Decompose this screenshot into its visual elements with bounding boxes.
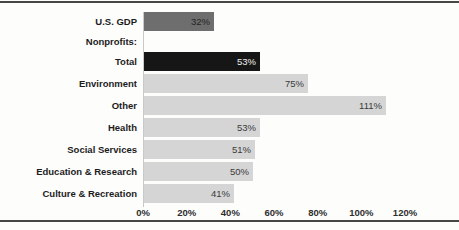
x-tick-label: 40% (205, 207, 255, 218)
bar-value-label: 111% (359, 100, 382, 111)
bar: 32% (144, 12, 214, 31)
x-tick-label: 100% (336, 207, 386, 218)
bar-chart: U.S. GDP32%Nonprofits:Total53%Environmen… (0, 0, 459, 220)
x-tick-label: 80% (293, 207, 343, 218)
category-label: Education & Research (0, 162, 137, 181)
bar-value-label: 41% (211, 188, 230, 199)
bar: 53% (144, 52, 260, 71)
bar: 111% (144, 96, 386, 115)
category-label: U.S. GDP (0, 12, 137, 31)
x-tick-label: 20% (162, 207, 212, 218)
bar-value-label: 53% (237, 56, 256, 67)
chart-page: U.S. GDP32%Nonprofits:Total53%Environmen… (0, 0, 459, 230)
category-label: Total (0, 52, 137, 71)
bar: 41% (144, 184, 234, 203)
category-label: Nonprofits: (0, 31, 137, 52)
bar: 75% (144, 74, 308, 93)
category-label: Environment (0, 74, 137, 93)
bar: 53% (144, 118, 260, 137)
bar-value-label: 51% (232, 144, 251, 155)
bar-value-label: 32% (191, 16, 210, 27)
bar-value-label: 75% (285, 78, 304, 89)
category-label: Culture & Recreation (0, 184, 137, 203)
category-label: Social Services (0, 140, 137, 159)
x-tick-label: 60% (249, 207, 299, 218)
bar: 51% (144, 140, 255, 159)
bar-value-label: 50% (230, 166, 249, 177)
bar: 50% (144, 162, 253, 181)
bottom-rule (0, 220, 459, 222)
category-label: Health (0, 118, 137, 137)
x-tick-label: 120% (380, 207, 430, 218)
x-tick-label: 0% (118, 207, 168, 218)
bar-value-label: 53% (237, 122, 256, 133)
category-label: Other (0, 96, 137, 115)
